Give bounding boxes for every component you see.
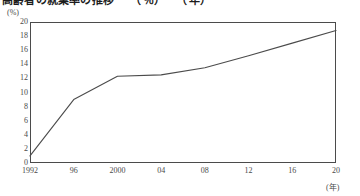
chart-figure: 高齢者の就業率の推移 （％） （年） (%) (年) 2018161412108… xyxy=(0,0,360,196)
x-tick-label: 20 xyxy=(332,167,340,175)
x-tick-label: 16 xyxy=(288,167,296,175)
data-line xyxy=(30,30,336,155)
x-tick-label: 1992 xyxy=(22,167,38,175)
x-tick-label: 96 xyxy=(70,167,78,175)
x-tick-label: 08 xyxy=(201,167,209,175)
x-tick-label: 2000 xyxy=(109,167,125,175)
x-axis-tick-labels: 19929620000408121620 xyxy=(0,167,360,179)
x-tick-label: 12 xyxy=(245,167,253,175)
x-tick-label: 04 xyxy=(157,167,165,175)
